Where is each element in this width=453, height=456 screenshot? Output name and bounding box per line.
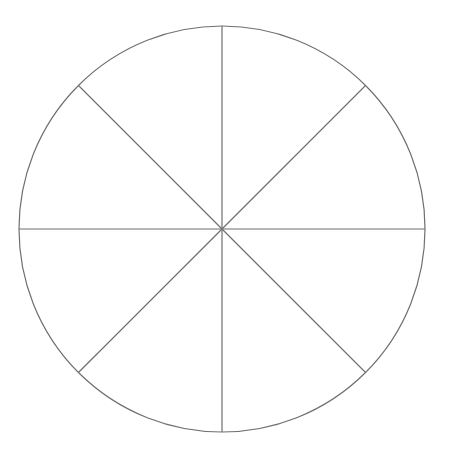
divider-lines <box>19 26 425 432</box>
eight-segment-circle-diagram <box>0 0 453 456</box>
